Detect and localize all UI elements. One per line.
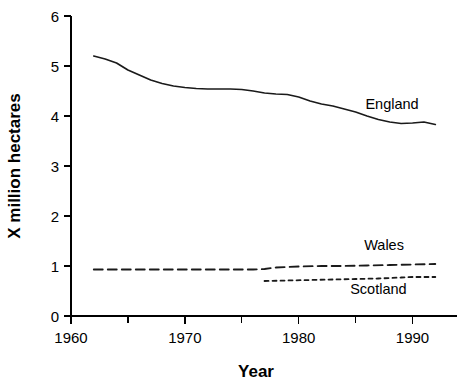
series-label-scotland: Scotland (350, 281, 406, 297)
y-axis-title: X million hectares (5, 93, 24, 239)
y-tick-label-5: 5 (51, 58, 59, 75)
x-tick-label-1980: 1980 (282, 329, 315, 346)
series-line-wales (94, 264, 436, 270)
series-line-england (94, 56, 436, 125)
y-tick-label-3: 3 (51, 158, 59, 175)
x-axis-title: Year (238, 362, 274, 381)
y-tick-label-4: 4 (51, 108, 59, 125)
series-label-england: England (365, 96, 418, 112)
x-tick-label-1960: 1960 (54, 329, 87, 346)
y-tick-label-2: 2 (51, 208, 59, 225)
x-tick-label-1970: 1970 (168, 329, 201, 346)
series-label-wales: Wales (364, 237, 404, 253)
chart-container: 01234561960197019801990EnglandWalesScotl… (0, 0, 464, 385)
x-tick-label-1990: 1990 (396, 329, 429, 346)
y-tick-label-0: 0 (51, 308, 59, 325)
y-tick-label-1: 1 (51, 258, 59, 275)
line-chart: 01234561960197019801990EnglandWalesScotl… (0, 0, 464, 385)
y-tick-label-6: 6 (51, 8, 59, 25)
